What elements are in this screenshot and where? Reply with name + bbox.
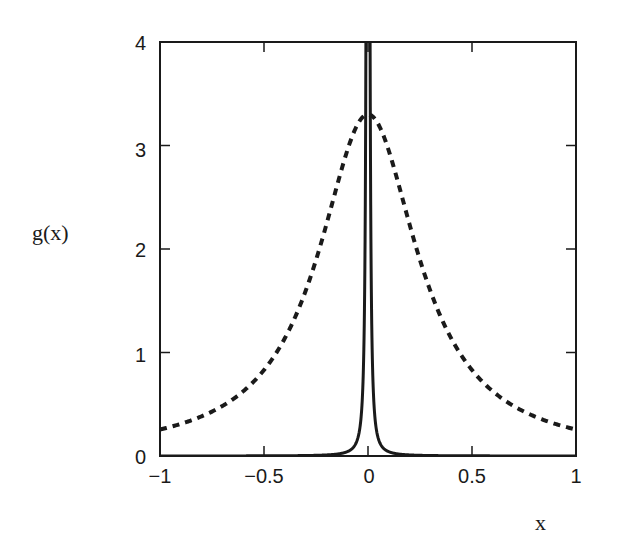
x-tick-labels: −1 −0.5 0 0.5 1 (149, 465, 582, 487)
x-tick-label-neg0.5: −0.5 (244, 465, 283, 487)
dashed-curve-broad (160, 114, 576, 429)
y-tick-label-2: 2 (135, 239, 146, 261)
lorentzian-chart: 4 3 2 1 0 −1 −0.5 0 0.5 1 g(x) x (0, 0, 619, 560)
y-tick-labels: 4 3 2 1 0 (135, 32, 146, 468)
axis-ticks (160, 42, 576, 456)
x-axis-label: x (535, 510, 546, 535)
y-tick-label-3: 3 (135, 139, 146, 161)
y-axis-label: g(x) (32, 220, 69, 245)
x-tick-label-0.5: 0.5 (458, 465, 486, 487)
y-tick-label-4: 4 (135, 32, 146, 54)
solid-curve-narrow (160, 0, 576, 456)
y-tick-label-1: 1 (135, 344, 146, 366)
y-tick-label-0: 0 (135, 446, 146, 468)
x-tick-label-1: 1 (570, 465, 581, 487)
x-tick-label-neg1: −1 (149, 465, 172, 487)
plot-frame (160, 42, 576, 456)
x-tick-label-0: 0 (363, 465, 374, 487)
